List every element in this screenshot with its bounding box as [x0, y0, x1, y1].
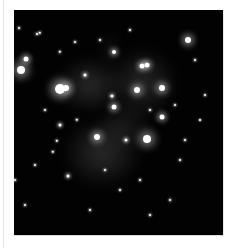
- star: [104, 169, 106, 171]
- star: [112, 50, 116, 54]
- star: [67, 175, 70, 178]
- star: [194, 59, 196, 61]
- star: [59, 124, 62, 127]
- star: [184, 139, 186, 141]
- star: [199, 119, 201, 121]
- nebula-glow: [100, 30, 120, 70]
- star: [160, 115, 165, 120]
- pleiades-star-cluster-photo: Grayscale astrophotograph of the Pleiade…: [14, 10, 224, 236]
- star: [34, 164, 36, 166]
- left-edge-line: [3, 0, 4, 248]
- star: [143, 135, 151, 143]
- star: [74, 41, 76, 43]
- star: [139, 179, 141, 181]
- star: [44, 109, 46, 111]
- star: [204, 94, 206, 96]
- star: [112, 105, 117, 110]
- star: [14, 179, 16, 181]
- star: [129, 29, 131, 31]
- star: [59, 51, 61, 53]
- star: [63, 85, 69, 91]
- star: [149, 109, 151, 111]
- star: [125, 139, 128, 142]
- star: [145, 63, 150, 68]
- star: [134, 87, 140, 93]
- star: [179, 159, 181, 161]
- star: [18, 27, 20, 29]
- star: [36, 33, 38, 35]
- star: [99, 39, 101, 41]
- star: [174, 104, 176, 106]
- star: [149, 214, 151, 216]
- star: [56, 140, 58, 142]
- star: [52, 151, 54, 153]
- star: [24, 204, 26, 206]
- star: [111, 95, 114, 98]
- star: [185, 37, 191, 43]
- star: [39, 32, 41, 34]
- star: [119, 189, 121, 191]
- star: [169, 199, 171, 201]
- star: [84, 74, 87, 77]
- star: [159, 85, 165, 91]
- star: [17, 66, 25, 74]
- star: [94, 134, 100, 140]
- star: [24, 57, 29, 62]
- star: [89, 209, 91, 211]
